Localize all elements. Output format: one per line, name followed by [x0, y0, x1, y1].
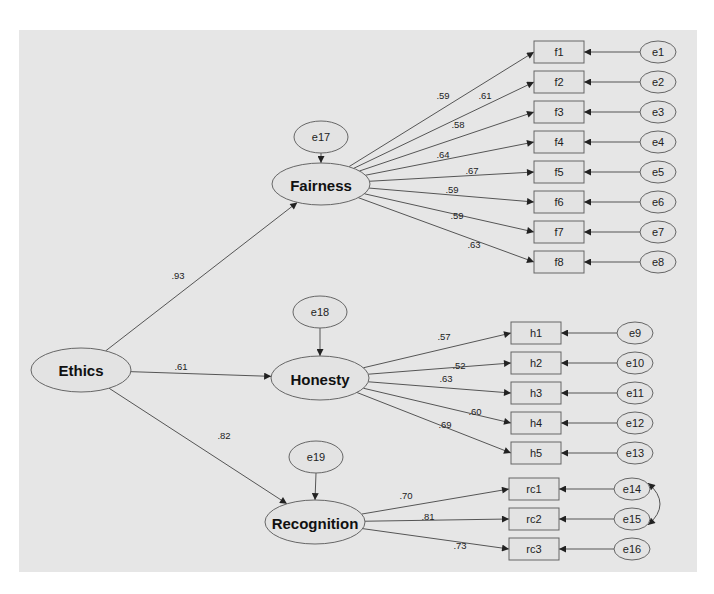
- loading-f5: .67: [465, 165, 478, 176]
- error-e14-label: e14: [623, 483, 641, 495]
- disturbance-e17-label: e17: [312, 131, 330, 143]
- indicator-f6-label: f6: [554, 196, 563, 208]
- diagram-background: [19, 30, 697, 572]
- loading-h4: .60: [468, 406, 481, 417]
- disturbance-e18-label: e18: [311, 306, 329, 318]
- indicator-h3-label: h3: [530, 387, 542, 399]
- indicator-h4-label: h4: [530, 417, 542, 429]
- error-e5-label: e5: [652, 166, 664, 178]
- loading-ethics-honesty: .61: [174, 361, 187, 372]
- loading-h5: .69: [438, 419, 451, 430]
- error-e6-label: e6: [652, 196, 664, 208]
- loading-rc2: .81: [421, 511, 434, 522]
- latent-ethics-label: Ethics: [58, 362, 103, 379]
- error-e4-label: e4: [652, 136, 664, 148]
- loading-h2: .52: [452, 360, 465, 371]
- loading-ethics-fairness: .93: [171, 270, 184, 281]
- indicator-f5-label: f5: [554, 166, 563, 178]
- indicator-h5-label: h5: [530, 447, 542, 459]
- error-e10-label: e10: [626, 357, 644, 369]
- indicator-f1-label: f1: [554, 46, 563, 58]
- indicator-f2-label: f2: [554, 76, 563, 88]
- loading-h1: .57: [437, 331, 450, 342]
- error-e13-label: e13: [626, 447, 644, 459]
- loading-ethics-recognition: .82: [217, 430, 230, 441]
- loading-f4: .64: [436, 149, 449, 160]
- indicator-rc3-label: rc3: [526, 543, 541, 555]
- error-e1-label: e1: [652, 46, 664, 58]
- indicator-h1-label: h1: [530, 327, 542, 339]
- loading-f6: .59: [445, 184, 458, 195]
- loading-rc3: .73: [453, 540, 466, 551]
- indicator-f3-label: f3: [554, 106, 563, 118]
- error-e3-label: e3: [652, 106, 664, 118]
- error-e16-label: e16: [623, 543, 641, 555]
- loading-f7: .59: [450, 210, 463, 221]
- disturbance-e19-label: e19: [307, 451, 325, 463]
- sem-diagram: Ethicse17Fairnesse18Honestye19Recognitio…: [0, 0, 714, 594]
- error-e2-label: e2: [652, 76, 664, 88]
- indicator-h2-label: h2: [530, 357, 542, 369]
- indicator-rc2-label: rc2: [526, 513, 541, 525]
- error-e8-label: e8: [652, 256, 664, 268]
- error-e15-label: e15: [623, 513, 641, 525]
- latent-fairness-label: Fairness: [290, 177, 352, 194]
- loading-f8: .63: [467, 239, 480, 250]
- error-e11-label: e11: [626, 387, 644, 399]
- latent-honesty-label: Honesty: [290, 371, 350, 388]
- indicator-f8-label: f8: [554, 256, 563, 268]
- indicator-f7-label: f7: [554, 226, 563, 238]
- indicator-f4-label: f4: [554, 136, 563, 148]
- latent-recognition-label: Recognition: [272, 515, 359, 532]
- loading-rc1: .70: [399, 490, 412, 501]
- loading-f3: .58: [451, 119, 464, 130]
- loading-f1: .59: [436, 90, 449, 101]
- indicator-rc1-label: rc1: [526, 483, 541, 495]
- error-e12-label: e12: [626, 417, 644, 429]
- error-e7-label: e7: [652, 226, 664, 238]
- loading-h3: .63: [439, 373, 452, 384]
- loading-f2: .61: [478, 90, 491, 101]
- error-e9-label: e9: [629, 327, 641, 339]
